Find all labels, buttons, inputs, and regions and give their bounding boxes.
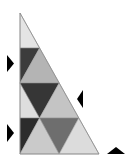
arrow-right-icon [7, 124, 14, 142]
triangle-diagram [0, 0, 133, 167]
arrow-right-icon [7, 55, 14, 72]
arrow-up-icon [107, 147, 125, 154]
arrow-left-icon [77, 90, 83, 108]
